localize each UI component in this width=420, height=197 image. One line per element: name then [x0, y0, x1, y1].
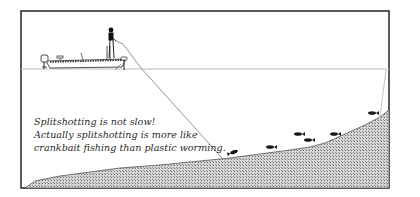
caption-text: Splitshotting is not slow! Actually spli…: [34, 115, 226, 154]
diagram-canvas: [0, 0, 420, 197]
caption-line-1: Splitshotting is not slow!: [34, 115, 226, 128]
caption-line-3: crankbait fishing than plastic worming.: [34, 141, 226, 154]
diagram-scene: Splitshotting is not slow! Actually spli…: [0, 0, 420, 197]
caption-line-2: Actually splitshotting is more like: [34, 128, 226, 141]
